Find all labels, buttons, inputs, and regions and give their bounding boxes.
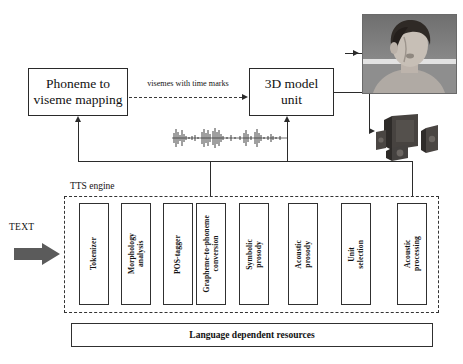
stage-acoustic-prosody-label: Acoustic prosody [294, 240, 313, 269]
stage-symbolic-prosody: Symbolic prosody [239, 203, 269, 305]
tts-to-model-arrowhead-icon [284, 116, 290, 122]
text-input-label: TEXT [9, 222, 34, 232]
tts-bus-right [210, 161, 413, 162]
stage-symbolic-prosody-label: Symbolic prosody [245, 239, 264, 270]
stage-morphology-analysis-label: Morphology analysis [127, 233, 146, 274]
diagram-canvas: Phoneme to viseme mapping visemes with t… [0, 0, 463, 364]
tts-engine-label: TTS engine [68, 181, 117, 191]
tts-to-model-riser [287, 122, 288, 161]
phoneme-to-viseme-mapping-block: Phoneme to viseme mapping [28, 68, 128, 116]
stage-acoustic-prosody: Acoustic prosody [288, 203, 318, 305]
visemes-with-time-marks-label: visemes with time marks [130, 79, 246, 88]
tts-bus-left [78, 161, 211, 162]
stage-unit-selection: Unit selection [341, 203, 371, 305]
text-input-arrow-icon [14, 243, 60, 265]
visemes-arrowhead-icon [242, 94, 248, 100]
visemes-dashed-connector [129, 97, 242, 98]
stage-pos-tagger-label: POS-tagger [173, 235, 182, 274]
language-dependent-resources-label: Language dependent resources [189, 330, 314, 341]
talking-head-output-image [362, 14, 457, 94]
face-arrowhead-icon [353, 50, 359, 56]
stage-tokenizer-label: Tokenizer [89, 237, 98, 270]
phoneme-to-viseme-mapping-label: Phoneme to viseme mapping [34, 76, 123, 107]
speech-waveform-svg [172, 124, 287, 152]
stage-grapheme-to-phoneme-conversion-label: Grapheme-to-phoneme conversion [202, 215, 221, 292]
stage-acoustic-processing-label: Acoustic processing [403, 236, 422, 271]
3d-model-unit-label: 3D model unit [265, 76, 319, 107]
stage-grapheme-to-phoneme-conversion: Grapheme-to-phoneme conversion [196, 203, 226, 305]
text-input-arrow-svg [14, 243, 60, 265]
stage-acoustic-processing: Acoustic processing [397, 203, 427, 305]
stage-pos-tagger: POS-tagger [163, 203, 193, 305]
loudspeakers-output-image [374, 112, 454, 164]
3d-model-unit-block: 3D model unit [249, 68, 334, 116]
language-dependent-resources-block: Language dependent resources [71, 323, 433, 347]
talking-head-svg [363, 15, 456, 93]
stage-tokenizer: Tokenizer [79, 203, 109, 305]
stage-morphology-analysis: Morphology analysis [121, 203, 151, 305]
stage-unit-selection-label: Unit selection [347, 240, 366, 269]
tts-to-phoneme-arrowhead-icon [75, 116, 81, 122]
loudspeakers-svg [374, 112, 454, 164]
speech-waveform [172, 124, 287, 152]
tts-to-phoneme-riser [78, 122, 79, 161]
